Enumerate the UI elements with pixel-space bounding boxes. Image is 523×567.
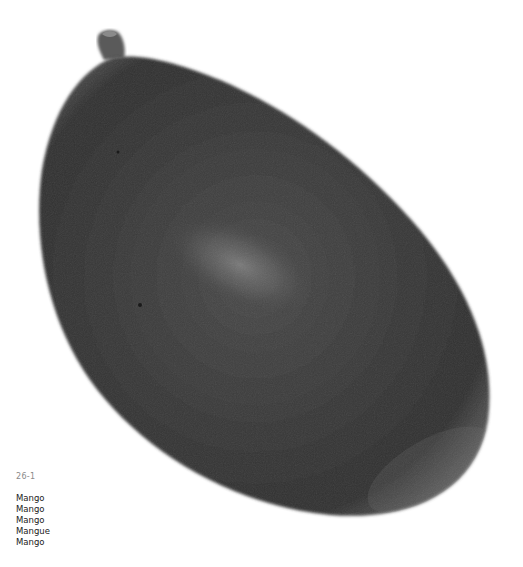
- fruit-names: Mango Mango Mango Mangue Mango: [16, 493, 50, 548]
- name-line: Mango: [16, 493, 50, 504]
- mango-stem: [97, 30, 124, 60]
- blemish: [138, 303, 142, 307]
- plate-number: 26-1: [16, 472, 50, 481]
- caption: 26-1 Mango Mango Mango Mangue Mango: [16, 472, 50, 548]
- name-line: Mango: [16, 504, 50, 515]
- mango-highlight: [0, 0, 523, 567]
- name-line: Mango: [16, 537, 50, 548]
- blemish: [117, 151, 120, 154]
- mango-photo: [0, 0, 523, 567]
- name-line: Mangue: [16, 526, 50, 537]
- name-line: Mango: [16, 515, 50, 526]
